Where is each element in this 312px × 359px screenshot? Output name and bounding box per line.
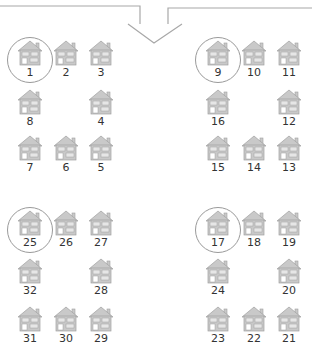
house-icon [17,89,43,115]
house-number-label: 6 [51,162,81,174]
house-number-label: 5 [86,162,116,174]
house-number-label: 28 [86,285,116,297]
house-icon [276,135,302,161]
house-number-label: 12 [274,116,304,128]
house-icon [276,89,302,115]
house-number-label: 2 [51,67,81,79]
house-icon [241,40,267,66]
house-icon [88,89,114,115]
house-number-label: 18 [239,237,269,249]
house-icon [17,135,43,161]
house-icon [241,306,267,332]
house-icon [88,210,114,236]
house-number-label: 4 [86,116,116,128]
house-number-label: 16 [203,116,233,128]
house-icon [276,258,302,284]
house-number-label: 21 [274,333,304,345]
arrow-head [128,24,182,43]
house-icon [205,258,231,284]
house-number-label: 8 [15,116,45,128]
house-number-label: 19 [274,237,304,249]
house-icon [205,135,231,161]
house-icon [53,210,79,236]
house-number-label: 25 [15,237,45,249]
house-number-label: 13 [274,162,304,174]
house-icon [53,40,79,66]
house-number-label: 26 [51,237,81,249]
house-icon [205,40,231,66]
house-number-label: 10 [239,67,269,79]
house-icon [205,89,231,115]
house-icon [88,40,114,66]
house-number-label: 20 [274,285,304,297]
house-number-label: 30 [51,333,81,345]
house-number-label: 27 [86,237,116,249]
house-number-label: 23 [203,333,233,345]
house-icon [205,306,231,332]
house-number-label: 29 [86,333,116,345]
arrow-right-line [168,8,312,24]
house-number-label: 32 [15,285,45,297]
house-number-label: 3 [86,67,116,79]
house-number-label: 14 [239,162,269,174]
house-icon [241,135,267,161]
house-icon [88,258,114,284]
house-icon [53,135,79,161]
house-number-label: 17 [203,237,233,249]
house-icon [17,40,43,66]
house-icon [205,210,231,236]
house-number-label: 7 [15,162,45,174]
house-icon [17,210,43,236]
house-icon [88,135,114,161]
house-icon [276,40,302,66]
house-icon [88,306,114,332]
house-numbering-diagram: 1234567891011121314151617181920212223242… [0,0,312,359]
house-number-label: 9 [203,67,233,79]
house-number-label: 15 [203,162,233,174]
house-icon [17,306,43,332]
house-number-label: 31 [15,333,45,345]
house-icon [276,210,302,236]
house-icon [276,306,302,332]
house-icon [241,210,267,236]
house-number-label: 22 [239,333,269,345]
house-number-label: 11 [274,67,304,79]
house-number-label: 24 [203,285,233,297]
house-icon [53,306,79,332]
house-icon [17,258,43,284]
arrow-left-line [0,6,140,24]
house-number-label: 1 [15,67,45,79]
